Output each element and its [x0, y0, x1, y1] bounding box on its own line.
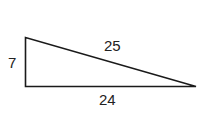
side-label-vertical: 7 [8, 55, 16, 70]
side-label-hypotenuse: 25 [104, 38, 121, 53]
side-label-base: 24 [99, 92, 116, 107]
